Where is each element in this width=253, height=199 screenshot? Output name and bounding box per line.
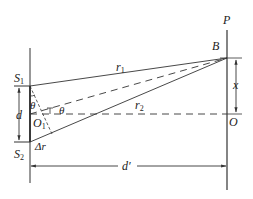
label-o: O [229, 115, 238, 129]
double-slit-diagram: P B S1 S2 r1 r2 d x θ θ O1 O Δr d′ [0, 0, 253, 199]
label-r1: r1 [116, 60, 125, 75]
label-d: d [16, 108, 23, 122]
ray-r2 [30, 58, 227, 142]
label-delta-r: Δr [34, 140, 46, 152]
label-o1: O1 [33, 116, 46, 131]
label-r2: r2 [135, 98, 144, 113]
label-p: P [222, 13, 231, 27]
label-x: x [232, 78, 239, 92]
label-theta-left: θ [30, 99, 36, 111]
ray-r1 [30, 58, 227, 86]
label-theta-right: θ [59, 104, 65, 116]
label-d-prime: d′ [122, 159, 131, 173]
label-b: B [212, 39, 220, 53]
label-s1: S1 [14, 71, 24, 86]
label-s2: S2 [14, 147, 24, 162]
